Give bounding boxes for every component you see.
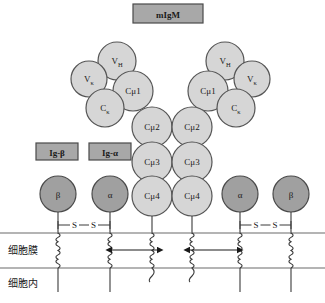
bcr-migm-diagram: VHVκCμ1CκVHVκCμ1CκCμ2Cμ2Cμ3Cμ3Cμ4Cμ4 βαα… xyxy=(0,0,325,303)
tm-helix-mu-right xyxy=(189,233,194,282)
diagram-canvas: VHVκCμ1CκVHVκCμ1CκCμ2Cμ2Cμ3Cμ3Cμ4Cμ4 βαα… xyxy=(0,0,325,303)
transmembrane-helix-layer xyxy=(56,233,293,282)
migm-title-box: mIgM xyxy=(133,4,203,23)
domain-left-cmu4: Cμ4 xyxy=(132,176,172,216)
tm-helix-alpha-right xyxy=(238,233,242,268)
domain-right-cmu2: Cμ2 xyxy=(172,107,212,147)
accessory-alpha-left: α xyxy=(92,176,128,212)
domain-right-cmu4: Cμ4 xyxy=(172,176,212,216)
domain-label-left-cmu4: Cμ4 xyxy=(144,191,160,201)
accessory-alpha-right: α xyxy=(222,176,258,212)
tm-helix-beta-right xyxy=(289,233,293,268)
heavy-chain-stems xyxy=(152,216,192,234)
ss-right-label-b: S xyxy=(272,220,277,230)
migm-box-label: mIgM xyxy=(156,10,180,20)
ig-beta-box-label: Ig-β xyxy=(49,148,65,158)
tm-helix-alpha-left xyxy=(108,233,112,268)
membrane-lines xyxy=(0,233,325,268)
domain-label-left-cmu1: Cμ1 xyxy=(125,86,140,96)
ig-alpha-box: Ig-α xyxy=(89,143,131,160)
intracellular-tails xyxy=(58,268,291,292)
ig-beta-box: Ig-β xyxy=(36,143,78,160)
accessory-label-beta-right: β xyxy=(289,190,294,200)
domain-left-ck: Cκ xyxy=(86,89,124,127)
domain-right-ck: Cκ xyxy=(217,89,255,127)
domain-label-left-cmu2: Cμ2 xyxy=(144,122,159,132)
tm-helix-beta-left xyxy=(56,233,60,268)
disulfide-bond-layer: SSSS xyxy=(58,220,291,230)
domain-label-right-cmu2: Cμ2 xyxy=(184,122,199,132)
ss-left-label-b: S xyxy=(91,220,96,230)
domain-label-right-cmu1: Cμ1 xyxy=(200,86,215,96)
ss-right-label-a: S xyxy=(253,220,258,230)
ss-left-label-a: S xyxy=(72,220,77,230)
tm-helix-mu-left xyxy=(149,233,154,282)
accessory-beta-right: β xyxy=(273,176,309,212)
ig-alpha-box-label: Ig-α xyxy=(102,148,118,158)
intracellular-label: 细胞内 xyxy=(8,277,38,289)
ss-right: SS xyxy=(240,220,291,230)
membrane-label: 细胞膜 xyxy=(8,244,38,256)
ss-left: SS xyxy=(58,220,110,230)
domain-left-cmu2: Cμ2 xyxy=(132,107,172,147)
domain-label-right-cmu3: Cμ3 xyxy=(184,157,200,167)
accessory-beta-left: β xyxy=(40,176,76,212)
domain-label-left-cmu3: Cμ3 xyxy=(144,157,160,167)
accessory-label-beta-left: β xyxy=(56,190,61,200)
accessory-label-alpha-right: α xyxy=(238,190,243,200)
domain-label-right-cmu4: Cμ4 xyxy=(184,191,200,201)
accessory-label-alpha-left: α xyxy=(108,190,113,200)
